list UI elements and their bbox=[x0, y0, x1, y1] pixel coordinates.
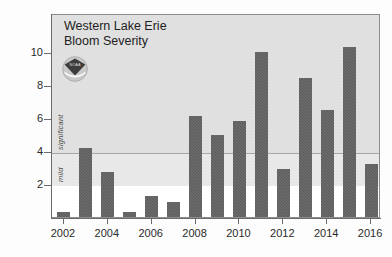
x-tick-2006 bbox=[151, 219, 152, 224]
x-tick-label-2004: 2004 bbox=[84, 228, 130, 239]
x-tick-label-2006: 2006 bbox=[128, 228, 174, 239]
bar-2011 bbox=[255, 52, 268, 217]
bar-2002 bbox=[57, 212, 70, 217]
bar-2013 bbox=[299, 78, 312, 217]
x-tick-2014 bbox=[326, 219, 327, 224]
bar-2008 bbox=[189, 116, 202, 217]
bar-2012 bbox=[277, 169, 290, 217]
y-tick-label-10: 10 bbox=[3, 47, 43, 58]
x-tick-label-2010: 2010 bbox=[215, 228, 261, 239]
y-tick-6 bbox=[44, 119, 52, 120]
x-tick-2010 bbox=[238, 219, 239, 224]
y-tick-label-6: 6 bbox=[3, 113, 43, 124]
x-tick-label-2008: 2008 bbox=[172, 228, 218, 239]
zone-label-mild: mild bbox=[56, 167, 65, 182]
bar-2016 bbox=[365, 164, 378, 217]
bar-2003 bbox=[79, 148, 92, 217]
bar-2005 bbox=[123, 212, 136, 217]
bar-2010 bbox=[233, 121, 246, 217]
y-tick-label-2: 2 bbox=[3, 179, 43, 190]
y-tick-4 bbox=[44, 152, 52, 153]
bar-2004 bbox=[101, 172, 114, 217]
y-tick-10 bbox=[44, 53, 52, 54]
bar-2014 bbox=[321, 110, 334, 217]
chart-title: Western Lake Erie Bloom Severity bbox=[64, 19, 167, 49]
bar-2006 bbox=[145, 196, 158, 217]
bar-2009 bbox=[211, 135, 224, 218]
x-tick-label-2016: 2016 bbox=[347, 228, 392, 239]
y-tick-2 bbox=[44, 185, 52, 186]
svg-text:NOAA: NOAA bbox=[69, 62, 80, 67]
x-tick-label-2014: 2014 bbox=[303, 228, 349, 239]
x-tick-label-2012: 2012 bbox=[259, 228, 305, 239]
y-tick-8 bbox=[44, 86, 52, 87]
x-tick-2008 bbox=[195, 219, 196, 224]
x-tick-2004 bbox=[107, 219, 108, 224]
bar-2007 bbox=[167, 202, 180, 217]
noaa-logo: NOAA bbox=[62, 56, 88, 82]
zone-label-significant: significant bbox=[56, 115, 65, 151]
y-tick-label-8: 8 bbox=[3, 80, 43, 91]
y-axis bbox=[51, 14, 52, 219]
x-axis bbox=[51, 218, 381, 219]
bar-2015 bbox=[343, 47, 356, 217]
x-tick-label-2002: 2002 bbox=[40, 228, 86, 239]
x-tick-2016 bbox=[370, 219, 371, 224]
x-tick-2012 bbox=[282, 219, 283, 224]
y-tick-label-4: 4 bbox=[3, 146, 43, 157]
x-tick-2002 bbox=[63, 219, 64, 224]
bloom-severity-chart: 246810 20022004200620082010201220142016 … bbox=[0, 0, 392, 257]
